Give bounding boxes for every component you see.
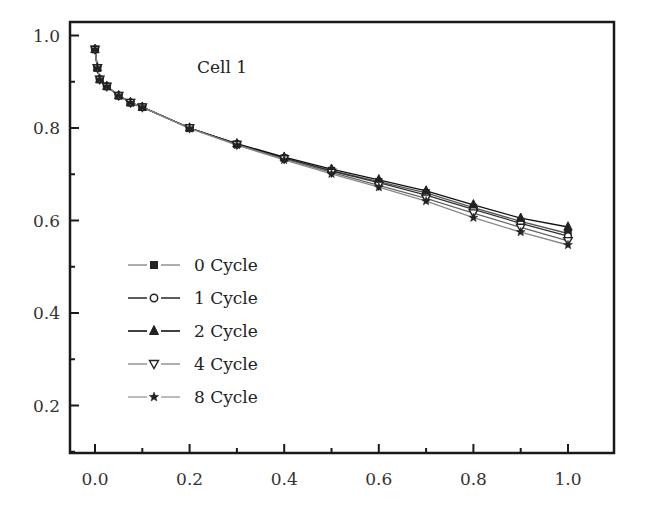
x-tick-label: 1.0 <box>554 469 581 489</box>
circle-marker-icon <box>150 294 157 301</box>
x-tick-label: 0.2 <box>176 469 203 489</box>
y-tick-label: 0.8 <box>33 118 60 138</box>
legend-label: 4 Cycle <box>194 354 258 374</box>
legend-item: 4 Cycle <box>128 354 258 374</box>
x-tick-label: 0.6 <box>365 469 392 489</box>
x-tick-label: 0.4 <box>271 469 298 489</box>
series-line <box>95 49 568 233</box>
legend-label: 2 Cycle <box>194 321 258 341</box>
y-tick-label: 0.6 <box>33 211 60 231</box>
chart: 0.20.40.60.81.0 0.00.20.40.60.81.0 Cell … <box>0 0 648 518</box>
series-line <box>95 49 568 236</box>
legend-item: 2 Cycle <box>128 321 258 341</box>
star-marker-icon <box>564 240 573 249</box>
legend-label: 8 Cycle <box>194 387 258 407</box>
cell-annotation: Cell 1 <box>197 57 247 77</box>
square-marker-icon <box>151 262 158 269</box>
x-axis: 0.00.20.40.60.81.0 <box>81 444 581 489</box>
legend-item: 0 Cycle <box>128 255 258 275</box>
legend-label: 1 Cycle <box>194 288 258 308</box>
triangle-down-marker-icon <box>150 361 159 369</box>
y-axis: 0.20.40.60.81.0 <box>33 26 79 452</box>
plot-markers <box>91 44 573 249</box>
series-line <box>95 49 568 245</box>
plot-lines <box>95 49 568 245</box>
star-marker-icon <box>149 392 159 401</box>
x-tick-label: 0.0 <box>81 469 108 489</box>
legend-item: 8 Cycle <box>128 387 258 407</box>
plot-frame <box>70 22 614 453</box>
y-tick-label: 1.0 <box>33 26 60 46</box>
legend: 0 Cycle1 Cycle2 Cycle4 Cycle8 Cycle <box>128 255 258 407</box>
x-tick-label: 0.8 <box>460 469 487 489</box>
y-tick-label: 0.2 <box>33 396 60 416</box>
series-line <box>95 49 568 227</box>
legend-item: 1 Cycle <box>128 288 258 308</box>
triangle-up-marker-icon <box>150 326 159 335</box>
legend-label: 0 Cycle <box>194 255 258 275</box>
y-tick-label: 0.4 <box>33 303 60 323</box>
